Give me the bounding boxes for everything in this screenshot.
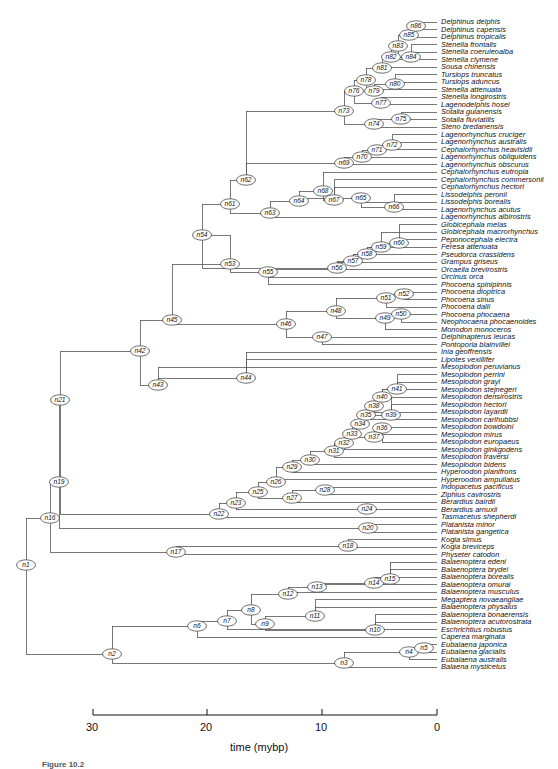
tree-node-label: n28 xyxy=(319,486,330,493)
tree-node-n13: n13 xyxy=(308,582,327,592)
tree-node-n8: n8 xyxy=(242,605,261,615)
tree-node-n52: n52 xyxy=(395,289,414,299)
tree-node-n17: n17 xyxy=(167,547,186,557)
figure-caption: Figure 10.2 xyxy=(42,760,84,769)
tree-node-label: n8 xyxy=(247,606,255,613)
tree-node-n50: n50 xyxy=(392,309,411,319)
tree-node-label: n29 xyxy=(286,463,297,470)
tree-node-n60: n60 xyxy=(390,238,409,248)
tree-node-n3: n3 xyxy=(335,658,354,668)
tree-node-n80: n80 xyxy=(386,79,405,89)
tree-node-label: n80 xyxy=(389,80,400,87)
tree-node-n2: n2 xyxy=(103,649,122,659)
axis-title: time (mybp) xyxy=(230,741,288,753)
tree-node-n72: n72 xyxy=(383,140,402,150)
tree-node-label: n59 xyxy=(375,243,386,250)
tree-node-n47: n47 xyxy=(313,332,332,342)
tree-node-n21: n21 xyxy=(51,395,70,405)
tree-node-label: n54 xyxy=(196,231,207,238)
tree-node-n51: n51 xyxy=(377,293,396,303)
tree-node-n43: n43 xyxy=(149,380,168,390)
tree-node-n56: n56 xyxy=(328,263,347,273)
tree-node-n1: n1 xyxy=(17,560,36,570)
tree-node-label: n21 xyxy=(54,396,65,403)
tree-node-label: n24 xyxy=(361,505,372,512)
tree-node-n22: n22 xyxy=(210,509,229,519)
tree-node-n70: n70 xyxy=(353,152,372,162)
tree-node-label: n10 xyxy=(369,626,380,633)
tree-node-n54: n54 xyxy=(193,230,212,240)
tree-node-label: n75 xyxy=(395,115,406,122)
axis-tick-10: 10 xyxy=(315,721,327,733)
tree-node-label: n27 xyxy=(286,494,297,501)
tree-node-n23: n23 xyxy=(227,498,246,508)
tree-node-n40: n40 xyxy=(373,392,392,402)
tree-node-n75: n75 xyxy=(392,114,411,124)
tree-node-label: n41 xyxy=(391,385,402,392)
tree-node-label: n33 xyxy=(346,430,357,437)
tree-node-label: n11 xyxy=(310,612,321,619)
tree-node-n15: n15 xyxy=(381,574,400,584)
tree-node-label: n16 xyxy=(44,514,55,521)
tree-node-label: n77 xyxy=(375,99,386,106)
tree-node-n44: n44 xyxy=(237,373,256,383)
tree-node-label: n78 xyxy=(360,76,371,83)
tree-node-label: n70 xyxy=(356,153,367,160)
tree-node-n79: n79 xyxy=(365,86,384,96)
tree-node-label: n51 xyxy=(380,294,391,301)
tree-node-label: n9 xyxy=(261,620,269,627)
tree-node-label: n64 xyxy=(293,197,304,204)
tree-node-label: n53 xyxy=(224,260,235,267)
tree-node-label: n7 xyxy=(223,617,231,624)
tree-node-label: n84 xyxy=(405,53,416,60)
axis-tick-20: 20 xyxy=(200,721,212,733)
tree-node-n82: n82 xyxy=(382,52,401,62)
tree-node-n81: n81 xyxy=(373,63,392,73)
tree-node-label: n5 xyxy=(420,644,428,651)
tree-node-n25: n25 xyxy=(249,487,268,497)
tree-node-label: n69 xyxy=(338,159,349,166)
tree-node-n28: n28 xyxy=(316,485,335,495)
tree-node-n73: n73 xyxy=(335,106,354,116)
tree-node-label: n48 xyxy=(330,307,341,314)
tree-node-label: n18 xyxy=(342,542,353,549)
tree-node-label: n34 xyxy=(354,420,365,427)
tree-node-label: n38 xyxy=(368,402,379,409)
tree-node-label: n55 xyxy=(262,268,273,275)
tree-node-label: n67 xyxy=(328,196,339,203)
tree-node-label: n58 xyxy=(361,250,372,257)
tree-node-n5: n5 xyxy=(415,643,434,653)
tree-node-label: n22 xyxy=(213,510,224,517)
tree-node-label: n76 xyxy=(348,87,359,94)
time-axis xyxy=(93,709,437,715)
tree-node-n24: n24 xyxy=(358,504,377,514)
tree-node-label: n82 xyxy=(385,53,396,60)
tree-node-n48: n48 xyxy=(327,306,346,316)
tree-node-n84: n84 xyxy=(402,52,421,62)
tree-node-label: n1 xyxy=(22,561,30,568)
tree-node-n19: n19 xyxy=(50,477,69,487)
tree-node-label: n12 xyxy=(282,590,293,597)
tree-node-n16: n16 xyxy=(41,513,60,523)
tree-node-label: n3 xyxy=(340,659,348,666)
tree-node-label: n39 xyxy=(385,411,396,418)
tree-node-n55: n55 xyxy=(259,267,278,277)
tree-node-n77: n77 xyxy=(372,98,391,108)
tree-node-label: n83 xyxy=(392,42,403,49)
tree-node-label: n31 xyxy=(328,447,339,454)
tree-node-label: n50 xyxy=(395,310,406,317)
tree-node-n6: n6 xyxy=(188,621,207,631)
tree-node-label: n81 xyxy=(376,64,387,71)
tree-node-n33: n33 xyxy=(343,429,362,439)
tree-node-n7: n7 xyxy=(218,616,237,626)
tree-node-n63: n63 xyxy=(261,208,280,218)
tree-node-n67: n67 xyxy=(325,195,344,205)
tree-node-label: n85 xyxy=(403,31,414,38)
tree-node-label: n86 xyxy=(410,22,421,29)
tree-node-label: n47 xyxy=(316,333,327,340)
tree-node-n53: n53 xyxy=(221,259,240,269)
tree-node-label: n45 xyxy=(166,316,177,323)
tree-node-n86: n86 xyxy=(407,21,426,31)
tree-node-label: n49 xyxy=(379,314,390,321)
tree-node-label: n40 xyxy=(376,393,387,400)
